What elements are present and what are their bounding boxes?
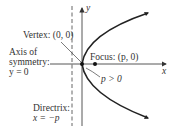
axis-of-symmetry-label-3: y = 0: [9, 67, 29, 77]
axis-of-symmetry-label-2: symmetry:: [9, 57, 50, 67]
directrix-label-1: Directrix:: [33, 103, 70, 113]
focus-point: [93, 62, 97, 66]
axis-of-symmetry-label-1: Axis of: [9, 47, 37, 57]
directrix-label-2: x = −p: [33, 113, 60, 123]
focus-label: Focus: (p, 0): [90, 52, 138, 62]
p-label: p > 0: [101, 74, 122, 84]
parabola-curve: [82, 13, 148, 118]
vertex-label: Vertex: (0, 0): [23, 30, 73, 40]
x-axis-label: x: [162, 66, 166, 76]
y-axis-label: y: [86, 3, 90, 13]
vertex-point: [80, 62, 84, 66]
